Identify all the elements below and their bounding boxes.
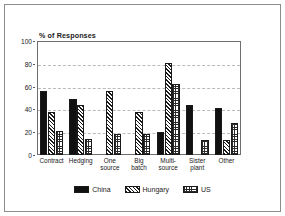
y-tick-mark <box>33 109 35 110</box>
y-axis: 020406080100 <box>10 41 35 155</box>
y-tick-label: 60 <box>25 83 32 90</box>
plot-area <box>37 41 241 155</box>
y-tick-mark <box>33 64 35 65</box>
gridline <box>38 133 240 134</box>
x-tick-label: Sister plant <box>189 157 205 172</box>
y-tick-label: 40 <box>25 106 32 113</box>
x-tick-label: Contract <box>39 157 63 164</box>
y-tick-mark <box>33 87 35 88</box>
y-tick-label: 0 <box>28 152 32 159</box>
gridline <box>38 88 240 89</box>
y-tick-mark <box>33 41 35 42</box>
x-tick-label: One source <box>100 157 119 172</box>
y-tick-mark <box>33 155 35 156</box>
chart-title: % of Responses <box>39 31 96 40</box>
x-tick-label: Multi- source <box>159 157 178 172</box>
y-tick-label: 80 <box>25 60 32 67</box>
y-tick-label: 100 <box>21 38 32 45</box>
legend-swatch-china-icon <box>74 186 89 193</box>
x-axis: ContractHedgingOne sourceBig batchMulti-… <box>37 157 241 179</box>
legend-entry: Hungary <box>125 186 169 193</box>
gridline <box>38 110 240 111</box>
x-tick-label: Hedging <box>69 157 93 164</box>
legend-entry: China <box>74 186 110 193</box>
y-tick-label: 20 <box>25 129 32 136</box>
legend-swatch-us-icon <box>183 186 198 193</box>
x-tick-label: Big batch <box>131 157 147 172</box>
legend-label: Hungary <box>143 186 169 193</box>
legend-swatch-hungary-icon <box>125 186 140 193</box>
chart-figure: % of Responses 020406080100 ContractHedg… <box>0 0 285 216</box>
x-tick-label: Other <box>218 157 234 164</box>
chart-legend: ChinaHungaryUS <box>0 186 285 193</box>
y-tick-mark <box>33 132 35 133</box>
legend-label: US <box>201 186 211 193</box>
gridline <box>38 65 240 66</box>
legend-entry: US <box>183 186 211 193</box>
legend-label: China <box>92 186 110 193</box>
